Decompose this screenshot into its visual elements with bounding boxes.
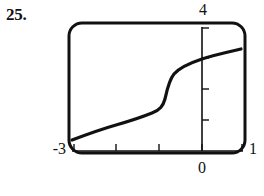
origin-label: 0 bbox=[191, 160, 213, 176]
viewing-window-border bbox=[69, 23, 245, 153]
x-min-label: -3 bbox=[36, 141, 66, 157]
graph-viewing-window bbox=[0, 0, 264, 196]
figure-container: 25. 4 -3 1 0 bbox=[0, 0, 264, 196]
x-max-label: 1 bbox=[249, 141, 263, 157]
y-max-label: 4 bbox=[192, 2, 214, 18]
